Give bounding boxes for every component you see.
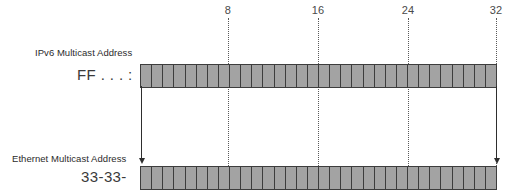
bit-cell <box>152 167 163 189</box>
bit-cell <box>375 65 386 87</box>
bit-cell <box>252 167 263 189</box>
bit-cell <box>208 65 219 87</box>
ipv6-address-caption: IPv6 Multicast Address <box>35 47 132 58</box>
bit-cell <box>208 167 219 189</box>
bit-cell <box>308 167 319 189</box>
ipv6-bit-bar <box>140 64 497 88</box>
bit-cell <box>163 65 174 87</box>
bit-cell <box>341 65 352 87</box>
tick-label-16: 16 <box>312 4 325 16</box>
bit-cell <box>352 65 363 87</box>
bit-cell <box>263 65 274 87</box>
bit-cell <box>386 167 397 189</box>
bit-cell <box>408 65 419 87</box>
bit-cell <box>174 65 185 87</box>
bit-cell <box>430 65 441 87</box>
guide-line-8 <box>228 18 229 190</box>
tick-label-32: 32 <box>490 4 503 16</box>
right-mapping-arrowhead-icon <box>494 158 500 164</box>
bit-cell <box>375 167 386 189</box>
bit-cell <box>419 65 430 87</box>
bit-cell <box>441 65 452 87</box>
bit-cell <box>475 65 486 87</box>
bit-cell <box>475 167 486 189</box>
bit-cell <box>397 65 408 87</box>
bit-cell <box>252 65 263 87</box>
bit-cell <box>241 167 252 189</box>
bit-cell <box>464 167 475 189</box>
bit-cell <box>430 167 441 189</box>
left-mapping-arrow-line <box>141 86 142 160</box>
ethernet-bit-bar <box>140 166 497 190</box>
bit-cell <box>286 167 297 189</box>
bit-cell <box>275 167 286 189</box>
right-mapping-arrow-line <box>496 86 497 160</box>
bit-cell <box>230 167 241 189</box>
guide-line-16 <box>318 18 319 190</box>
tick-label-24: 24 <box>402 4 415 16</box>
bit-cell <box>308 65 319 87</box>
bit-cell <box>141 65 152 87</box>
bit-cell <box>141 167 152 189</box>
bit-cell <box>408 167 419 189</box>
bit-cell <box>386 65 397 87</box>
bit-cell <box>330 167 341 189</box>
bit-cell <box>174 167 185 189</box>
bit-cell <box>219 167 230 189</box>
guide-line-24 <box>408 18 409 190</box>
bit-cell <box>364 167 375 189</box>
bit-cell <box>230 65 241 87</box>
bit-cell <box>152 65 163 87</box>
bit-cell <box>486 65 496 87</box>
address-mapping-diagram: 8 16 24 32 IPv6 Multicast Address FF . .… <box>0 0 514 196</box>
bit-cell <box>297 65 308 87</box>
bit-cell <box>319 167 330 189</box>
bit-cell <box>330 65 341 87</box>
bit-cell <box>319 65 330 87</box>
ethernet-address-prefix: 33-33- <box>81 168 127 185</box>
bit-cell <box>186 65 197 87</box>
bit-cell <box>364 65 375 87</box>
bit-cell <box>197 65 208 87</box>
bit-cell <box>341 167 352 189</box>
ethernet-address-caption: Ethernet Multicast Address <box>12 153 126 164</box>
bit-cell <box>286 65 297 87</box>
bit-cell <box>241 65 252 87</box>
bit-cell <box>397 167 408 189</box>
bit-cell <box>453 65 464 87</box>
bit-cell <box>453 167 464 189</box>
bit-cell <box>263 167 274 189</box>
bit-cell <box>419 167 430 189</box>
bit-cell <box>219 65 230 87</box>
ipv6-address-prefix: FF . . . : <box>77 66 133 83</box>
bit-cell <box>163 167 174 189</box>
bit-cell <box>464 65 475 87</box>
bit-cell <box>486 167 496 189</box>
bit-cell <box>297 167 308 189</box>
bit-cell <box>186 167 197 189</box>
left-mapping-arrowhead-icon <box>139 158 145 164</box>
bit-cell <box>197 167 208 189</box>
bit-cell <box>441 167 452 189</box>
bit-cell <box>275 65 286 87</box>
tick-label-8: 8 <box>225 4 231 16</box>
bit-cell <box>352 167 363 189</box>
